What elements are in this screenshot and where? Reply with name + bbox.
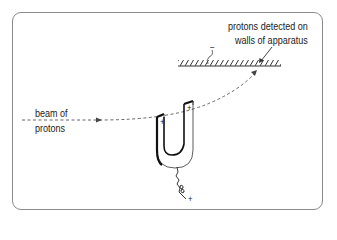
beam-label-line2: protons <box>35 122 65 135</box>
magnet-pole-left-plus: + <box>160 116 165 129</box>
magnet-pole-right-plus: + <box>187 102 192 115</box>
wire-charge-plus: + <box>188 193 193 206</box>
charged-plate <box>178 50 281 66</box>
beam-label-line1: beam of <box>35 107 68 120</box>
detected-label-line1: protons detected on <box>228 20 308 33</box>
magnet-wire <box>176 167 186 199</box>
beam-arrow-head-2 <box>251 70 257 76</box>
plate-charge-minus: – <box>210 41 214 54</box>
detected-label-line2: walls of apparatus <box>235 34 308 47</box>
beam-arrow-head-1 <box>96 118 102 123</box>
